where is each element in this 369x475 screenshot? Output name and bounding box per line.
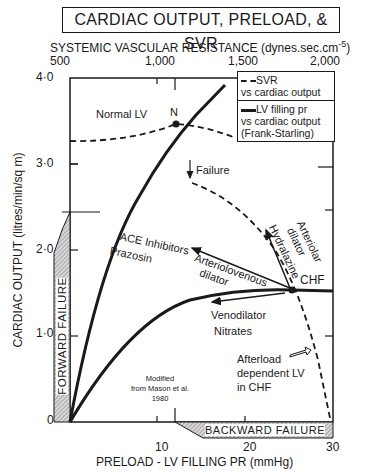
- label-failure: Failure: [196, 164, 230, 177]
- label-afterload-1: Afterload: [237, 353, 281, 366]
- label-normal-lv: Normal LV: [96, 108, 147, 121]
- svr-normal-curve: [70, 124, 233, 141]
- dashed-line-swatch: [241, 80, 256, 82]
- source-note: Modifiedfrom Mason et al.1980: [120, 374, 200, 404]
- label-n: N: [170, 106, 178, 119]
- backward-failure-label: BACKWARD FAILURE: [205, 424, 325, 436]
- solid-line-swatch: [241, 109, 256, 112]
- afterload-arrow: [290, 347, 311, 357]
- point-n: [173, 121, 180, 128]
- legend-lv: LV filling pr vs cardiac output (Frank-S…: [238, 100, 334, 141]
- label-chf: CHF: [300, 274, 325, 287]
- legend: SVR vs cardiac output LV filling pr vs c…: [237, 71, 335, 142]
- x-tick-30: 30: [326, 440, 339, 454]
- label-afterload-3: in CHF: [237, 381, 271, 394]
- legend-svr: SVR vs cardiac output: [238, 72, 334, 100]
- x-axis-label: PRELOAD - LV FILLING PR (mmHg): [96, 455, 293, 469]
- label-nitrates: Nitrates: [214, 325, 252, 338]
- x-tick-10: 10: [155, 440, 168, 454]
- label-venodilator: Venodilator: [211, 309, 266, 322]
- forward-failure-label: FORWARD FAILURE: [56, 277, 68, 394]
- label-afterload-2: dependent LV: [237, 367, 305, 380]
- x-tick-20: 20: [243, 440, 256, 454]
